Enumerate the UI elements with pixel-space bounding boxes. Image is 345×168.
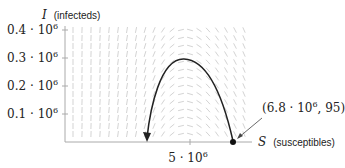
slope-segment bbox=[243, 99, 245, 104]
x-ticks: 5 · 106 bbox=[168, 139, 207, 165]
y-ticks: 0.1 · 1060.2 · 1060.3 · 1060.4 · 106 bbox=[7, 22, 68, 121]
slope-segment bbox=[118, 67, 119, 73]
annotation-arrowhead-icon bbox=[237, 133, 243, 139]
slope-segment bbox=[127, 131, 128, 137]
slope-segment bbox=[234, 67, 237, 72]
slope-segment bbox=[225, 131, 228, 136]
slope-segment bbox=[170, 76, 175, 80]
slope-segment bbox=[243, 123, 245, 128]
slope-segment bbox=[161, 84, 164, 89]
slope-segment bbox=[215, 108, 218, 113]
slope-segment bbox=[153, 51, 155, 57]
slope-segment bbox=[178, 125, 184, 126]
slope-segment bbox=[197, 52, 202, 55]
slope-segment bbox=[127, 59, 128, 65]
slope-segment bbox=[144, 43, 146, 49]
slope-segment bbox=[243, 75, 245, 80]
slope-segment bbox=[197, 92, 202, 95]
slope-segment bbox=[118, 83, 119, 89]
slope-segment bbox=[215, 36, 218, 41]
slope-segment bbox=[170, 36, 175, 40]
slope-segment bbox=[178, 117, 184, 118]
slope-segment bbox=[225, 27, 228, 32]
slope-segment bbox=[243, 43, 245, 48]
slope-segment bbox=[197, 36, 202, 39]
slope-segment bbox=[153, 59, 155, 65]
slope-segment bbox=[144, 51, 146, 57]
slope-segment bbox=[135, 131, 136, 137]
slope-segment bbox=[197, 28, 202, 31]
slope-segment bbox=[234, 99, 237, 104]
y-tick-label: 0.4 · 106 bbox=[7, 22, 58, 37]
initial-point bbox=[230, 139, 236, 145]
slope-segment bbox=[243, 35, 245, 40]
slope-segment bbox=[206, 92, 210, 96]
slope-segment bbox=[118, 35, 119, 41]
slope-segment bbox=[187, 77, 193, 79]
slope-segment bbox=[109, 115, 110, 121]
slope-segment bbox=[187, 85, 193, 87]
slope-segment bbox=[187, 101, 193, 103]
slope-segment bbox=[197, 68, 202, 71]
slope-segment bbox=[225, 51, 228, 56]
slope-segment bbox=[161, 92, 164, 97]
slope-segment bbox=[215, 116, 218, 121]
slope-segment bbox=[135, 115, 136, 121]
slope-segment bbox=[206, 116, 210, 120]
slope-segment bbox=[206, 44, 210, 48]
slope-segment bbox=[225, 59, 228, 64]
slope-segment bbox=[127, 43, 128, 49]
slope-segment bbox=[135, 27, 136, 33]
slope-segment bbox=[197, 132, 202, 135]
slope-segment bbox=[243, 91, 245, 96]
slope-segment bbox=[215, 60, 218, 65]
slope-segment bbox=[153, 115, 155, 121]
slope-segment bbox=[187, 53, 193, 55]
slope-segment bbox=[109, 99, 110, 105]
slope-segment bbox=[135, 59, 136, 65]
slope-segment bbox=[225, 67, 228, 72]
slope-segment bbox=[144, 75, 146, 81]
slope-segment bbox=[161, 124, 164, 129]
slope-segment bbox=[225, 43, 228, 48]
slope-segment bbox=[161, 116, 164, 121]
slope-segment bbox=[118, 107, 119, 113]
slope-segment bbox=[178, 29, 184, 30]
slope-segment bbox=[215, 100, 218, 105]
slope-segment bbox=[161, 108, 164, 113]
slope-segment bbox=[206, 132, 210, 136]
slope-segment bbox=[234, 131, 237, 136]
slope-segment bbox=[206, 108, 210, 112]
slope-segment bbox=[170, 100, 175, 104]
slope-segment bbox=[109, 43, 110, 49]
slope-segment bbox=[170, 68, 175, 72]
slope-segment bbox=[187, 69, 193, 71]
slope-segment bbox=[144, 115, 146, 121]
chart-svg: 0.1 · 1060.2 · 1060.3 · 1060.4 · 106 5 ·… bbox=[0, 0, 345, 168]
slope-segment bbox=[225, 83, 228, 88]
slope-segment bbox=[187, 117, 193, 119]
slope-segment bbox=[127, 35, 128, 41]
slope-segment bbox=[234, 83, 237, 88]
slope-segment bbox=[135, 107, 136, 113]
slope-segment bbox=[206, 52, 210, 56]
slope-segment bbox=[234, 75, 237, 80]
slope-segment bbox=[127, 115, 128, 121]
slope-segment bbox=[161, 44, 164, 49]
slope-segment bbox=[178, 37, 184, 38]
slope-segment bbox=[234, 107, 237, 112]
slope-segment bbox=[234, 43, 237, 48]
slope-segment bbox=[153, 123, 155, 129]
slope-segment bbox=[197, 76, 202, 79]
slope-segment bbox=[144, 99, 146, 105]
slope-segment bbox=[109, 67, 110, 73]
slope-segment bbox=[118, 43, 119, 49]
slope-segment bbox=[178, 93, 184, 94]
slope-segment bbox=[178, 77, 184, 78]
slope-segment bbox=[225, 75, 228, 80]
slope-segment bbox=[135, 51, 136, 57]
slope-segment bbox=[127, 107, 128, 113]
slope-segment bbox=[178, 45, 184, 46]
slope-segment bbox=[215, 68, 218, 73]
slope-segment bbox=[109, 51, 110, 57]
